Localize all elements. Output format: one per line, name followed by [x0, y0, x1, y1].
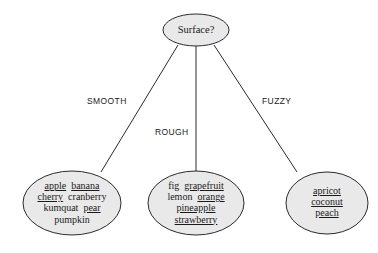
diagram-canvas [0, 0, 378, 253]
root-node-ellipse[interactable] [163, 14, 229, 46]
edge-smooth-line [101, 45, 178, 172]
leaf-node-smooth-ellipse[interactable] [23, 171, 121, 235]
leaf-node-fuzzy-ellipse[interactable] [286, 172, 368, 234]
decision-tree-diagram: Surface? SMOOTH ROUGH FUZZY applebananac… [0, 0, 378, 253]
edge-fuzzy-line [214, 45, 297, 172]
leaf-node-rough-ellipse[interactable] [148, 171, 244, 235]
